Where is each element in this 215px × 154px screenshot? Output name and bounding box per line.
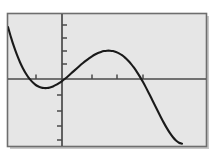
- plot-canvas: [0, 0, 215, 154]
- graph-figure: [0, 0, 215, 154]
- plot-area-background: [7, 13, 207, 147]
